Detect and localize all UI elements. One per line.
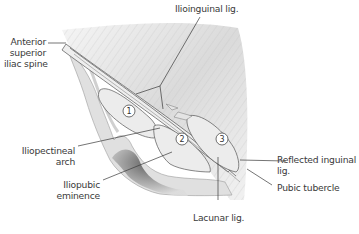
label-anterior-superior-iliac-spine: Anterior superior iliac spine [4,36,46,69]
label-line: lig. [277,165,356,176]
label-reflected-inguinal-lig: Reflected inguinal lig. [277,154,356,176]
marker-2: 2 [176,133,188,145]
label-line: superior [4,47,46,58]
label-line: Iliopubic [40,179,100,190]
svg-text:1: 1 [126,107,131,116]
label-line: Iliopectineal [12,145,75,156]
marker-1: 1 [123,105,135,117]
label-line: Reflected inguinal [277,154,356,165]
label-iliopectineal-arch: Iliopectineal arch [12,145,75,167]
leader-pubic-tubercle [247,169,272,185]
svg-text:3: 3 [219,135,224,144]
label-iliopubic-eminence: Iliopubic eminence [40,179,100,201]
label-line: Anterior [4,36,46,47]
label-ilioinguinal-lig: Ilioinguinal lig. [175,3,238,14]
marker-3: 3 [216,133,228,145]
svg-text:2: 2 [179,135,184,144]
inguinal-diagram: 1 2 3 Ilioinguinal lig. Anterior superio… [0,0,359,234]
label-line: iliac spine [4,58,46,69]
label-pubic-tubercle: Pubic tubercle [277,182,340,193]
label-lacunar-lig: Lacunar lig. [193,212,244,223]
label-line: eminence [40,190,100,201]
label-line: arch [12,156,75,167]
